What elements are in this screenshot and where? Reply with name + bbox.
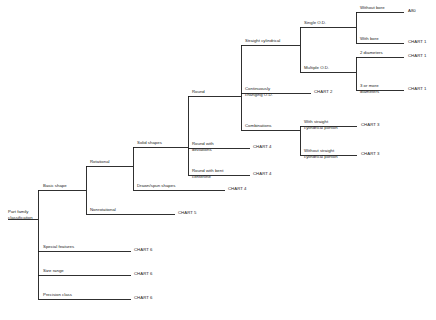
leaf-round-with-bent-centerline-chart: CHART 4: [253, 171, 271, 177]
leaf-precision-class-chart: CHART 6: [134, 295, 152, 301]
leaf-three-or-more-diameters-chart: CHART 1: [408, 86, 426, 92]
leaf-continuously-changing-od-chart: CHART 2: [314, 89, 332, 95]
node-without-straight-cylindrical-portion: Without straight cylindrical portion: [304, 148, 358, 159]
node-with-straight-cylindrical-portion: With straight cylindrical portion: [304, 119, 356, 130]
leaf-round-with-deviations-chart: CHART 4: [253, 144, 271, 150]
leaf-nonrotational-chart: CHART 5: [178, 210, 196, 216]
leaf-two-diameters-chart: CHART 1: [408, 53, 426, 59]
leaf-with-bore-chart: CHART 1: [408, 39, 426, 45]
node-nonrotational: Nonrotational: [90, 207, 138, 213]
node-special-features: Special features: [43, 244, 95, 250]
node-single-od: Single O.D.: [304, 20, 352, 26]
node-rotational: Rotational: [90, 159, 134, 165]
leaf-size-range-chart: CHART 6: [134, 271, 152, 277]
leaf-without-bore-chart: A80: [408, 8, 416, 14]
leaf-with-straight-cylindrical-portion-chart: CHART 3: [361, 122, 379, 128]
node-combinations: Combinations: [245, 123, 297, 129]
node-solid-shapes: Solid shapes: [137, 140, 187, 146]
leaf-without-straight-cylindrical-portion-chart: CHART 3: [361, 151, 379, 157]
node-basic-shape: Basic shape: [43, 183, 91, 189]
part-family-classification-diagram: Part family classification Basic shape S…: [0, 0, 436, 320]
leaf-drawn-spun-shapes-chart: CHART 4: [228, 186, 246, 192]
node-multiple-od: Multiple O.D.: [304, 65, 352, 71]
node-straight-cylindrical: Straight cylindrical: [245, 38, 301, 44]
node-precision-class: Precision class: [43, 292, 95, 298]
node-size-range: Size range: [43, 268, 91, 274]
node-three-or-more-diameters: 3 or more diameters: [360, 83, 400, 94]
node-with-bore: With bore: [360, 36, 400, 42]
node-two-diameters: 2 diameters: [360, 50, 404, 56]
node-without-bore: Without bore: [360, 5, 404, 11]
node-continuously-changing-od: Continuously changing O.D.: [245, 86, 293, 97]
leaf-special-features-chart: CHART 6: [134, 247, 152, 253]
node-round-with-bent-centerline: Round with bent centerline: [192, 168, 242, 179]
node-drawn-spun-shapes: Drawn/spun shapes: [137, 183, 193, 189]
node-round: Round: [192, 89, 236, 95]
node-part-family-classification: Part family classification: [8, 209, 42, 220]
node-round-with-deviations: Round with deviations: [192, 141, 238, 152]
